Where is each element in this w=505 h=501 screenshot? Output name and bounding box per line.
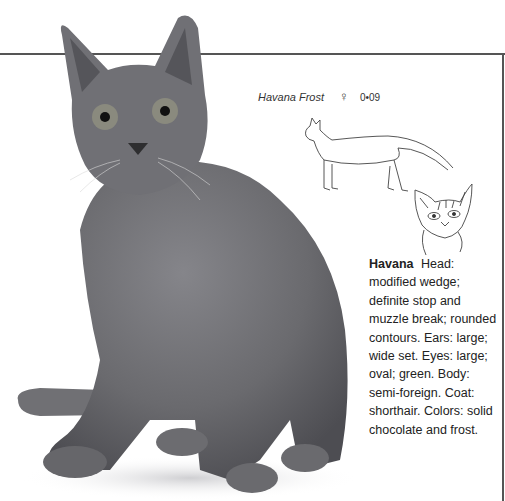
frame-right-rule <box>502 53 504 501</box>
cat-photo <box>0 0 360 501</box>
female-symbol-icon: ♀ <box>339 89 349 104</box>
caption-code: 0•09 <box>360 92 380 103</box>
cat-head-drawing <box>410 180 475 260</box>
caption-name: Havana Frost <box>258 91 324 103</box>
breed-name: Havana <box>369 257 413 271</box>
breed-standard-text: Head: modified wedge; definite stop and … <box>369 257 496 437</box>
breed-description: Havana Head: modified wedge; definite st… <box>369 255 497 439</box>
photo-caption: Havana Frost ♀ 0•09 <box>258 89 380 104</box>
